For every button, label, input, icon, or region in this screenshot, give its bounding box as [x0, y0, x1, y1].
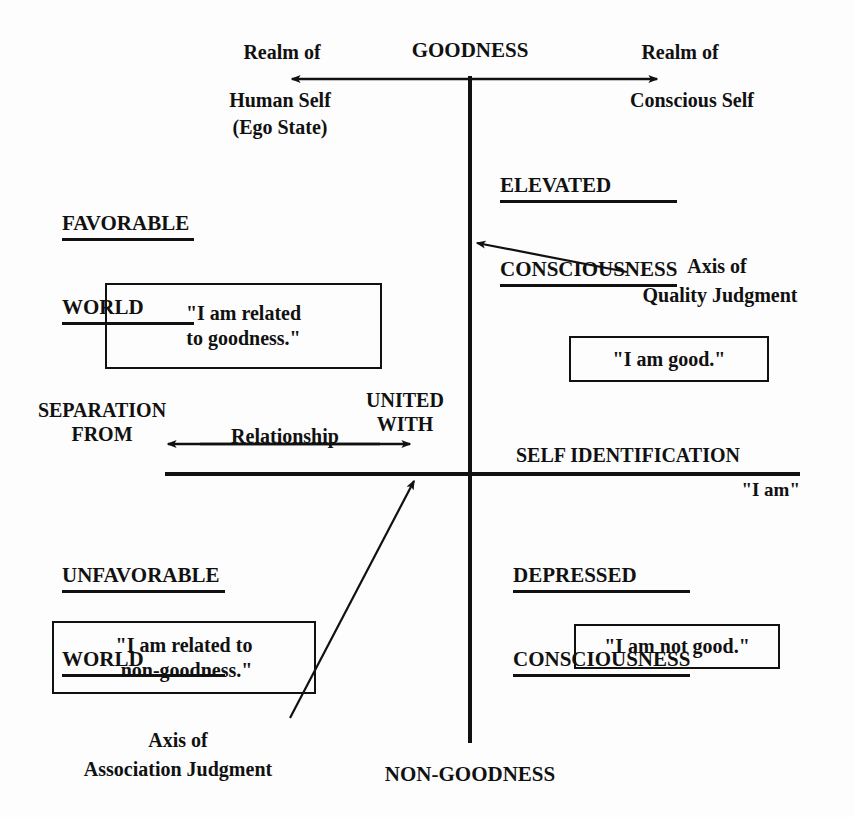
horizontal-axis-line	[165, 472, 800, 476]
callout-quality-judgment-line1: Axis of	[632, 254, 802, 278]
statement-box-elevated: "I am good."	[569, 336, 769, 382]
axis-label-self-identification: SELF IDENTIFICATION	[516, 443, 740, 467]
statement-box-depressed: "I am not good."	[574, 624, 780, 669]
realm-human-self-line2: Human Self	[190, 88, 370, 112]
quadrant-diagram: GOODNESS NON-GOODNESS Realm of Human Sel…	[0, 0, 854, 817]
quadrant-heading-depressed-consciousness: DEPRESSED CONSCIOUSNESS	[513, 512, 690, 731]
statement-box-favorable: "I am related to goodness."	[105, 283, 382, 369]
callout-association-judgment-line1: Axis of	[88, 728, 268, 752]
quadrant-heading-line-1: UNFAVORABLE	[62, 563, 225, 593]
quadrant-heading-line-1: ELEVATED	[500, 173, 677, 203]
statement-text: "I am not good."	[604, 634, 750, 659]
statement-text: "I am related to non-goodness."	[116, 633, 253, 683]
axis-label-non-goodness: NON-GOODNESS	[378, 762, 562, 788]
quadrant-heading-line-1: FAVORABLE	[62, 211, 194, 241]
callout-quality-judgment-line2: Quality Judgment	[620, 283, 820, 307]
callout-association-judgment-line2: Association Judgment	[44, 757, 312, 781]
axis-label-goodness: GOODNESS	[400, 38, 540, 64]
realm-human-self-line1: Realm of	[202, 40, 362, 64]
statement-text: "I am related to goodness."	[186, 301, 301, 351]
axis-label-relationship: Relationship	[200, 424, 370, 448]
quadrant-heading-line-1: DEPRESSED	[513, 563, 690, 593]
realm-conscious-self-line1: Realm of	[600, 40, 760, 64]
axis-label-i-am: "I am"	[640, 478, 800, 501]
statement-box-unfavorable: "I am related to non-goodness."	[52, 621, 316, 694]
quadrant-heading-elevated-consciousness: ELEVATED CONSCIOUSNESS	[500, 122, 677, 341]
realm-conscious-self-line2: Conscious Self	[592, 88, 792, 112]
axis-label-separation-from: SEPARATION FROM	[12, 398, 192, 447]
realm-human-self-line3: (Ego State)	[190, 115, 370, 139]
statement-text: "I am good."	[613, 347, 726, 372]
vertical-axis-line	[468, 76, 472, 743]
